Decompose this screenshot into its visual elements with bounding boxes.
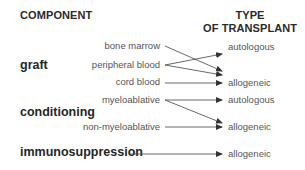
- connection-arrows: [0, 0, 305, 170]
- arrow-myeloablative-allogeneic: [165, 100, 222, 123]
- arrow-peripheral-blood-autologous: [165, 54, 222, 65]
- arrow-peripheral-blood-allogeneic: [165, 65, 222, 75]
- arrow-bone-marrow-allogeneic: [165, 46, 222, 71]
